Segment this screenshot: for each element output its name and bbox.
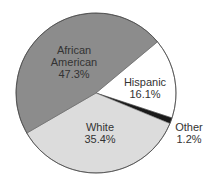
label-value: 47.3% <box>51 68 97 80</box>
label-other: Other 1.2% <box>175 121 203 145</box>
label-value: 1.2% <box>175 133 203 145</box>
label-text: African <box>51 44 97 56</box>
label-value: 16.1% <box>124 88 166 100</box>
label-value: 35.4% <box>84 133 115 145</box>
pie-chart <box>0 0 214 184</box>
label-text: American <box>51 56 97 68</box>
label-text: White <box>84 121 115 133</box>
label-hispanic: Hispanic 16.1% <box>124 76 166 100</box>
label-text: Other <box>175 121 203 133</box>
label-white: White 35.4% <box>84 121 115 145</box>
label-african-american: African American 47.3% <box>51 44 97 80</box>
label-text: Hispanic <box>124 76 166 88</box>
